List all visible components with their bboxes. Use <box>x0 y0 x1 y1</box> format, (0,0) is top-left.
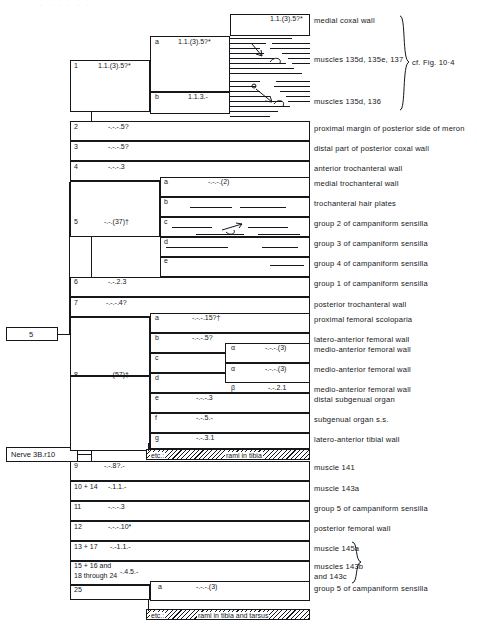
branch-5-formula: -.-.(37)† <box>104 218 129 225</box>
etc-caption-tibia: etc.: <box>150 452 165 459</box>
root-node-label: Nerve 3B.r10 <box>11 451 55 459</box>
branch-1b-letter: b <box>155 93 159 100</box>
branch-8a-box <box>150 313 310 333</box>
branch-8d-letter: d <box>155 374 159 381</box>
branch-8d-alpha-formula: -.-.-.(3) <box>265 365 286 372</box>
etc-rami-in-tibia-tarsus-bar: etc.: rami in tibia and tarsus <box>146 609 310 620</box>
branch-11-formula: -.-.-.3 <box>108 503 125 510</box>
branch-6-number: 6 <box>74 278 78 285</box>
branch-3-number: 3 <box>74 143 78 150</box>
branch-1-formula: 1.1.(3).5?* <box>98 62 131 69</box>
branch-15-number: 15 + 16 and <box>74 562 111 569</box>
branch-5-box <box>70 181 160 237</box>
branch-11-box <box>70 501 310 521</box>
schematic-arrow-b <box>230 80 310 120</box>
terminal-label-subgenual-organ-ss: subgenual organ s.s. <box>314 415 389 424</box>
branch-4-number: 4 <box>74 163 78 170</box>
terminal-label-latero-anterior-femoral-wall-b: latero-anterior femoral wall <box>314 335 410 344</box>
branch-1a-letter: a <box>155 38 159 45</box>
terminal-label-muscles-135d-136: muscles 135d, 136 <box>314 97 381 106</box>
branch-8e-box <box>150 393 310 413</box>
terminal-label-group-1-campaniform: group 1 of campaniform sensilla <box>314 279 428 288</box>
schematic-arrow-c <box>212 218 272 242</box>
branch-5a-box <box>160 177 310 197</box>
terminal-label-trochanteral-hair-plates: trochanteral hair plates <box>314 199 396 208</box>
terminal-label-group-3-campaniform: group 3 of campaniform sensilla <box>314 239 428 248</box>
branch-5d-letter: d <box>164 238 168 245</box>
terminal-label-muscle-141: muscle 141 <box>314 463 355 472</box>
branch-12-number: 12 <box>74 523 82 530</box>
branch-8b-letter: b <box>155 334 159 341</box>
schematic-panel-a <box>230 36 310 77</box>
branch-1a-terminal-1-formula: 1.1.(3).5?* <box>270 15 303 22</box>
terminal-label-distal-subgenual-organ: distal subgenual organ <box>314 395 395 404</box>
branch-13-formula: -.-1.1.- <box>110 543 131 550</box>
branch-10-formula: -.1.1.- <box>108 483 126 490</box>
terminal-label-medio-anterior-femoral-wall-ca: medio-anterior femoral wall <box>314 345 411 354</box>
branch-8e-formula: -.-.-.3 <box>196 394 213 401</box>
etc-label-rami-in-tibia: rami in tibia <box>225 452 263 459</box>
terminal-label-latero-anterior-tibial-wall: latero-anterior tibial wall <box>314 435 400 444</box>
top-cut-text: . . . . . . <box>40 1 91 7</box>
branch-2-formula: -.-.-.5? <box>108 123 129 130</box>
branch-1b-formula: 1.1.3.- <box>188 93 208 100</box>
branch-8d-beta-mark: β <box>231 384 235 391</box>
terminal-label-and-143c: and 143c <box>314 572 347 581</box>
terminal-label-muscles-135d-135e-137: muscles 135d, 135e, 137 <box>314 55 403 64</box>
branch-5b-box <box>160 197 310 217</box>
branch-8f-box <box>150 413 310 433</box>
branch-1a-formula: 1.1.(3).5?* <box>178 38 211 45</box>
cf-figure-brace <box>398 14 412 116</box>
branch-8-number: 8 <box>74 371 78 378</box>
branch-8c-letter: c <box>155 354 159 361</box>
branch-5c-letter: c <box>164 218 168 225</box>
muscle-group-brace <box>351 541 363 587</box>
terminal-label-medio-anterior-femoral-wall-cb: medio-anterior femoral wall <box>314 365 411 374</box>
terminal-label-posterior-trochanteral-wall: posterior trochanteral wall <box>314 300 406 309</box>
schematic-panel-b <box>230 80 310 120</box>
terminal-label-muscle-143a: muscle 143a <box>314 484 359 493</box>
terminal-label-medial-coxal-wall: medial coxal wall <box>314 16 375 25</box>
branch-6-formula: -.-.2.3 <box>108 278 126 285</box>
branch-8f-letter: f <box>155 414 157 421</box>
branch-5e-box <box>160 257 310 277</box>
terminal-label-group-4-campaniform: group 4 of campaniform sensilla <box>314 259 428 268</box>
branch-3-formula: -.-.-.5? <box>108 143 129 150</box>
branch-2-number: 2 <box>74 123 78 130</box>
branch-11-number: 11 <box>74 503 81 510</box>
branch-8g-formula: -.-.3.1 <box>196 434 214 441</box>
branch-8d-alpha-mark: α <box>231 365 235 372</box>
branch-25a-box <box>150 581 310 601</box>
terminal-label-group-2-campaniform: group 2 of campaniform sensilla <box>314 219 428 228</box>
cf-figure-note: cf. Fig. 10·4 <box>412 58 455 67</box>
branch-8-box-upper <box>70 317 150 376</box>
branch-5a-letter: a <box>164 178 168 185</box>
branch-12-box <box>70 521 310 541</box>
branch-5-number: 5 <box>74 218 78 225</box>
branch-8g-box <box>150 433 310 449</box>
branch-13-box <box>70 541 310 561</box>
branch-9-formula: -.-.8?.- <box>104 462 125 469</box>
figure-canvas: . . . . . . Nerve 3B.r10 5 1 1.1.(3).5?*… <box>0 0 477 631</box>
terminal-label-medio-anterior-femoral-wall-db: medio-anterior femoral wall <box>314 385 411 394</box>
branch-8a-formula: -.-.-.15?† <box>192 314 220 321</box>
terminal-label-anterior-trochanteral-wall: anterior trochanteral wall <box>314 164 402 173</box>
branch-8c-alpha-formula: -.-.-.(3) <box>265 344 286 351</box>
branch-8c-alpha-mark: α <box>231 344 235 351</box>
terminal-label-proximal-margin-meron: proximal margin of posterior side of mer… <box>314 124 465 133</box>
branch-5a-formula: -.-.-.(2) <box>208 178 229 185</box>
branch-25-box <box>70 585 150 600</box>
etc-rami-in-tibia-bar: etc.: rami in tibia <box>146 449 310 460</box>
branch-15-formula: -.4.5.- <box>120 568 138 575</box>
terminal-label-posterior-femoral-wall: posterior femoral wall <box>314 524 391 533</box>
branch-25-number: 25 <box>74 586 82 593</box>
branch-8g-letter: g <box>155 434 159 441</box>
schematic-arrow-a <box>230 36 310 77</box>
branch-7-number: 7 <box>74 299 78 306</box>
branch-13-number: 13 + 17 <box>74 543 98 550</box>
branch-9-number: 9 <box>74 462 78 469</box>
branch-5e-letter: e <box>164 257 168 264</box>
branch-8d-beta-formula: -.-.2.1 <box>268 384 286 391</box>
branch-10-number: 10 + 14 <box>74 483 98 490</box>
etc-label-rami-in-tibia-tarsus: rami in tibia and tarsus <box>197 612 269 619</box>
